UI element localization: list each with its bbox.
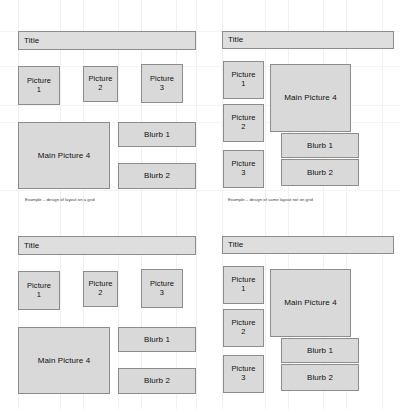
main-picture-4-box[interactable]: Main Picture 4: [18, 327, 110, 394]
main-picture-4-label: Main Picture 4: [284, 298, 337, 307]
picture-2-box[interactable]: Picture 2: [83, 66, 118, 102]
blurb-1-label: Blurb 1: [144, 335, 170, 344]
picture-2-label: Picture 2: [231, 114, 255, 131]
picture-3-label: Picture 3: [231, 365, 255, 382]
picture-1-label: Picture 1: [231, 276, 255, 293]
blurb-1-label: Blurb 1: [307, 346, 333, 355]
blurb-2-label: Blurb 2: [144, 171, 170, 180]
picture-2-box[interactable]: Picture 2: [83, 271, 118, 307]
picture-2-label: Picture 2: [88, 75, 112, 92]
blurb-2-box[interactable]: Blurb 2: [281, 364, 359, 391]
main-picture-4-label: Main Picture 4: [284, 93, 337, 102]
title-label: Title: [228, 35, 243, 44]
main-picture-4-label: Main Picture 4: [38, 356, 91, 365]
blurb-1-label: Blurb 1: [307, 141, 333, 150]
picture-2-label: Picture 2: [88, 280, 112, 297]
blurb-1-box[interactable]: Blurb 1: [118, 122, 196, 147]
blurb-2-label: Blurb 2: [307, 168, 333, 177]
title-bar[interactable]: Title: [18, 236, 196, 255]
title-bar[interactable]: Title: [222, 31, 394, 49]
picture-2-box[interactable]: Picture 2: [223, 104, 264, 142]
blurb-1-box[interactable]: Blurb 1: [281, 133, 359, 158]
picture-1-box[interactable]: Picture 1: [18, 271, 60, 310]
blurb-2-box[interactable]: Blurb 2: [281, 159, 359, 186]
title-label: Title: [228, 240, 243, 249]
picture-1-box[interactable]: Picture 1: [18, 66, 60, 105]
blurb-2-label: Blurb 2: [144, 376, 170, 385]
picture-1-label: Picture 1: [27, 282, 51, 299]
blurb-1-label: Blurb 1: [144, 130, 170, 139]
main-picture-4-label: Main Picture 4: [38, 151, 91, 160]
title-label: Title: [24, 36, 39, 45]
picture-1-label: Picture 1: [231, 71, 255, 88]
blurb-2-label: Blurb 2: [307, 373, 333, 382]
picture-2-label: Picture 2: [231, 319, 255, 336]
panel-caption: Example – design of layout on a grid: [25, 197, 95, 202]
blurb-2-box[interactable]: Blurb 2: [118, 163, 196, 189]
blurb-1-box[interactable]: Blurb 1: [118, 327, 196, 352]
picture-1-label: Picture 1: [27, 77, 51, 94]
picture-3-label: Picture 3: [150, 280, 174, 297]
picture-1-box[interactable]: Picture 1: [223, 61, 264, 99]
picture-3-label: Picture 3: [150, 75, 174, 92]
blurb-1-box[interactable]: Blurb 1: [281, 338, 359, 363]
picture-3-label: Picture 3: [231, 160, 255, 177]
title-label: Title: [24, 241, 39, 250]
picture-3-box[interactable]: Picture 3: [223, 150, 264, 188]
main-picture-4-box[interactable]: Main Picture 4: [18, 122, 110, 189]
main-picture-4-box[interactable]: Main Picture 4: [270, 269, 351, 337]
picture-2-box[interactable]: Picture 2: [223, 309, 264, 347]
picture-3-box[interactable]: Picture 3: [223, 355, 264, 393]
blurb-2-box[interactable]: Blurb 2: [118, 368, 196, 394]
picture-3-box[interactable]: Picture 3: [141, 269, 183, 308]
picture-1-box[interactable]: Picture 1: [223, 266, 264, 304]
panel-caption: Example – design of same layout not on g…: [228, 197, 313, 202]
picture-3-box[interactable]: Picture 3: [141, 64, 183, 103]
title-bar[interactable]: Title: [222, 236, 394, 254]
main-picture-4-box[interactable]: Main Picture 4: [270, 64, 351, 132]
title-bar[interactable]: Title: [18, 31, 196, 50]
